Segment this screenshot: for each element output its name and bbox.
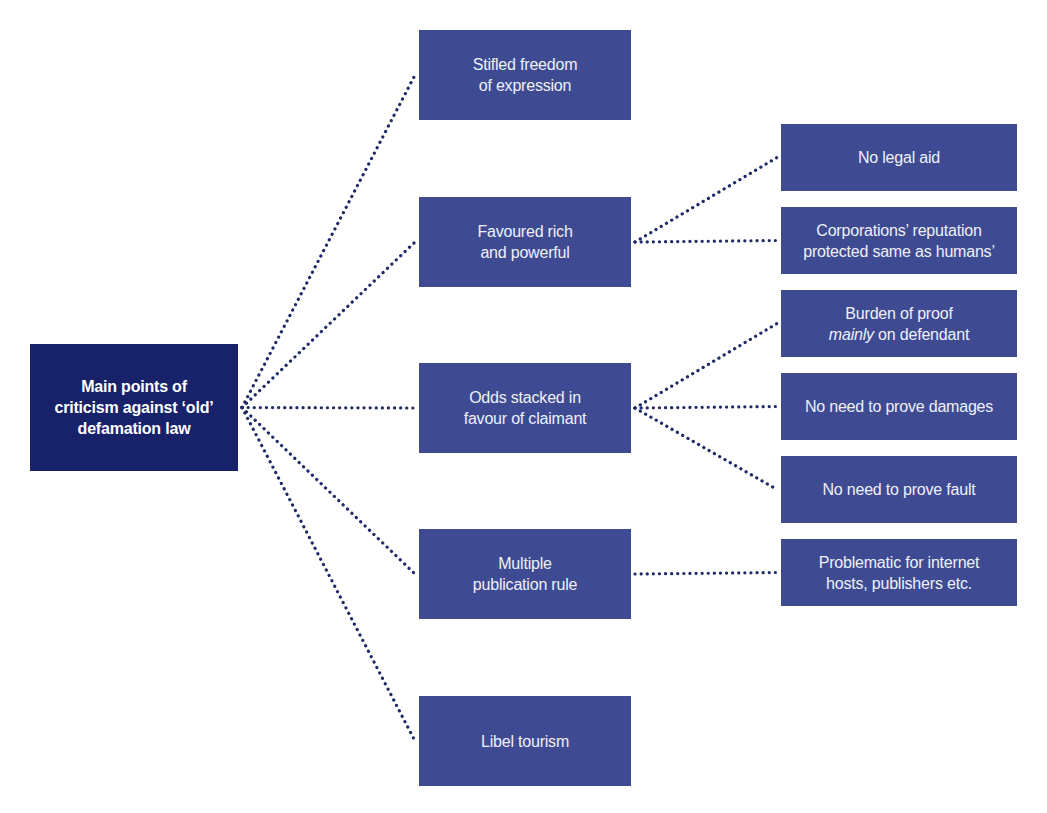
node-text: Odds stacked in favour of claimant	[464, 387, 587, 429]
root-line-2: criticism against ‘old’	[54, 397, 213, 418]
root-line-1: Main points of	[54, 376, 213, 397]
node-line: Odds stacked in	[464, 387, 587, 408]
node-text: No legal aid	[858, 147, 940, 168]
root-line-3: defamation law	[54, 418, 213, 439]
node-text: Corporations’ reputation protected same …	[803, 220, 995, 262]
node-stifled-freedom-of-expression: Stifled freedom of expression	[419, 30, 631, 120]
node-line: Libel tourism	[481, 731, 569, 752]
node-line-italic: mainly on defendant	[829, 324, 969, 345]
connector-root-to-odds	[242, 408, 415, 409]
connector-multiple-to-problematic	[635, 573, 777, 575]
diagram-canvas: Main points of criticism against ‘old’ d…	[0, 0, 1047, 813]
node-no-legal-aid: No legal aid	[781, 124, 1017, 191]
node-odds-stacked-in-favour-of-claimant: Odds stacked in favour of claimant	[419, 363, 631, 453]
connector-odds-to-burden	[635, 324, 777, 409]
node-libel-tourism: Libel tourism	[419, 696, 631, 786]
node-line: Problematic for internet	[819, 552, 980, 573]
node-line: of expression	[473, 75, 578, 96]
node-line: Multiple	[473, 553, 577, 574]
connector-root-to-stifled	[242, 75, 415, 408]
node-line: No legal aid	[858, 147, 940, 168]
node-line: favour of claimant	[464, 408, 587, 429]
node-text: No need to prove damages	[805, 396, 993, 417]
node-text: Favoured rich and powerful	[477, 221, 572, 263]
node-line: Favoured rich	[477, 221, 572, 242]
node-line: hosts, publishers etc.	[819, 573, 980, 594]
node-text: Multiple publication rule	[473, 553, 577, 595]
node-burden-of-proof-mainly-on-defendant: Burden of proof mainly on defendant	[781, 290, 1017, 357]
connector-root-to-multiple	[242, 408, 415, 575]
node-line: Burden of proof	[829, 303, 969, 324]
connector-root-to-libel	[242, 408, 415, 742]
node-text: Libel tourism	[481, 731, 569, 752]
node-line: No need to prove damages	[805, 396, 993, 417]
node-text: Problematic for internet hosts, publishe…	[819, 552, 980, 594]
node-multiple-publication-rule: Multiple publication rule	[419, 529, 631, 619]
node-corporations-reputation-protected: Corporations’ reputation protected same …	[781, 207, 1017, 274]
node-line: and powerful	[477, 242, 572, 263]
node-no-need-to-prove-damages: No need to prove damages	[781, 373, 1017, 440]
root-node-criticism-old-defamation-law: Main points of criticism against ‘old’ d…	[30, 344, 238, 471]
emphasis-text: mainly	[829, 326, 874, 343]
connector-favoured-to-corporations	[635, 241, 777, 243]
connector-root-to-favoured	[242, 242, 415, 408]
connector-favoured-to-legal_aid	[635, 158, 777, 243]
node-line: publication rule	[473, 574, 577, 595]
connector-odds-to-fault	[635, 408, 777, 490]
root-node-text: Main points of criticism against ‘old’ d…	[54, 376, 213, 439]
node-text: Burden of proof mainly on defendant	[829, 303, 969, 345]
node-line: Corporations’ reputation	[803, 220, 995, 241]
node-line: No need to prove fault	[822, 479, 975, 500]
node-favoured-rich-and-powerful: Favoured rich and powerful	[419, 197, 631, 287]
node-line: protected same as humans’	[803, 241, 995, 262]
node-line: Stifled freedom	[473, 54, 578, 75]
node-text: No need to prove fault	[822, 479, 975, 500]
connector-odds-to-damages	[635, 407, 777, 409]
node-text: Stifled freedom of expression	[473, 54, 578, 96]
node-problematic-for-internet-hosts: Problematic for internet hosts, publishe…	[781, 539, 1017, 606]
node-no-need-to-prove-fault: No need to prove fault	[781, 456, 1017, 523]
